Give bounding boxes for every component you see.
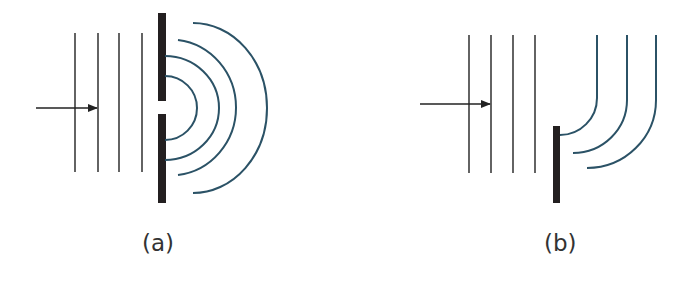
incident-wavefronts-a [75,33,142,172]
panel-b-label: (b) [544,230,577,256]
diffracted-wavefronts-b [560,35,656,168]
edge-barrier [553,126,560,203]
panel-a-label: (a) [142,230,174,256]
diffraction-diagram [0,0,686,281]
panel-b [420,35,656,203]
diffracted-wavefronts-a [165,23,267,193]
panel-a [36,13,267,203]
slit-barrier [158,13,166,203]
